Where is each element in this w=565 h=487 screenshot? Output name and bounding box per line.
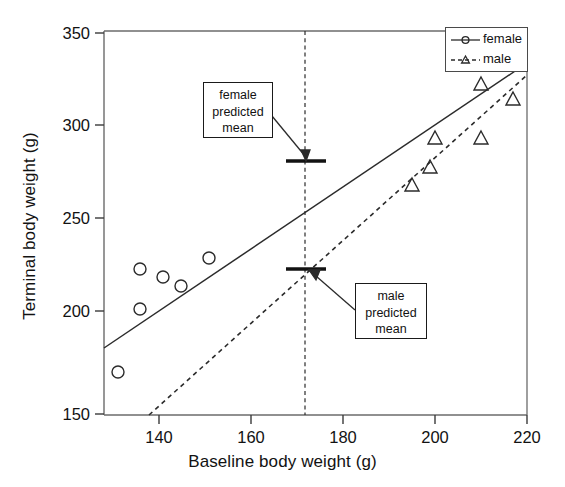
data-point-female [134,303,146,315]
x-tick-label-200: 200 [405,428,465,447]
y-tick-label-300: 300 [38,116,90,135]
female-fit-line [104,63,527,348]
data-point-male [474,131,488,144]
scatter-plot-figure: 350 300 250 200 150 140 160 180 200 220 … [0,0,565,487]
data-point-female [203,252,215,264]
x-tick-label-160: 160 [221,428,281,447]
legend: female male [445,27,528,72]
triangle-icon [450,50,481,70]
circle-icon [450,30,481,50]
callout-line-3: mean [356,321,426,338]
callout-line-1: female [204,87,272,104]
data-point-male [474,77,488,90]
y-axis-ticks [95,33,104,414]
y-tick-label-250: 250 [38,209,90,228]
female-data-points [112,252,215,378]
male-predicted-mean-callout: male predicted mean [355,283,427,339]
x-tick-label-140: 140 [129,428,189,447]
x-tick-label-180: 180 [313,428,373,447]
legend-label-male: male [483,51,511,66]
callout-line-2: predicted [204,104,272,121]
x-axis-ticks [159,415,527,424]
legend-label-female: female [483,31,522,46]
callout-line-2: predicted [356,305,426,322]
data-point-female [175,280,187,292]
data-point-female [157,271,169,283]
y-tick-label-350: 350 [38,24,90,43]
data-point-male [405,178,419,191]
legend-entry-female: female [450,30,526,50]
y-axis-title: Terminal body weight (g) [20,16,40,436]
male-callout-arrow [309,270,355,310]
plot-frame [104,31,527,415]
data-point-female [112,366,124,378]
x-axis-title: Baseline body weight (g) [0,452,565,472]
callout-line-3: mean [204,120,272,137]
y-tick-label-150: 150 [38,405,90,424]
y-tick-label-200: 200 [38,302,90,321]
female-predicted-mean-callout: female predicted mean [203,82,273,138]
data-point-male [428,131,442,144]
data-point-female [134,263,146,275]
female-callout-arrow [272,116,310,161]
data-point-male [506,92,520,105]
legend-entry-male: male [450,50,526,70]
x-tick-label-220: 220 [497,428,557,447]
callout-line-1: male [356,288,426,305]
